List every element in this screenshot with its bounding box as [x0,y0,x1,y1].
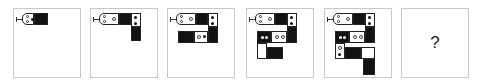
dot-icon [203,35,206,38]
question-mark: ? [402,33,468,53]
tail-end [16,17,17,22]
ring-icon [359,35,363,39]
snake-head [22,13,34,25]
ring-icon [281,35,285,39]
dot-icon [343,36,346,39]
dot-icon [338,53,341,56]
black-segment [267,47,283,59]
dot-icon [290,16,293,19]
black-segment [131,27,141,41]
eye-icon [337,20,340,23]
dot-icon [261,36,264,39]
eye-icon [26,20,29,23]
panel-6-answer[interactable]: ? [401,8,469,78]
dot-icon [211,16,214,19]
dot-icon [134,16,137,19]
black-segment [208,27,218,43]
eye-icon [259,15,262,18]
eye-icon [26,15,29,18]
ring-icon [112,17,116,21]
two-dot-segment [208,13,218,27]
eye-icon [103,20,106,23]
dot-icon [134,22,137,25]
black-segment [363,59,375,75]
black-segment [34,13,48,25]
black-segment [275,13,287,25]
ring-icon [353,35,357,39]
two-dot-segment [365,13,375,27]
snake-head [176,13,196,25]
panel-3 [167,8,235,78]
ring-icon [189,17,193,21]
ring-icon [268,17,272,21]
black-two-dot-segment [335,31,349,43]
black-two-dot-segment [257,31,271,43]
snake-head [255,13,275,25]
eye-icon [259,20,262,23]
snake-head [99,13,119,25]
eye-icon [337,15,340,18]
tail-end [327,17,328,22]
black-segment [345,47,361,59]
dot-icon [339,36,342,39]
eye-icon [180,15,183,18]
ring-icon [338,46,342,50]
tail-end [249,17,250,22]
eye-icon [103,15,106,18]
white-segment [361,47,375,59]
two-ring-segment [271,31,287,43]
eye-icon [180,20,183,23]
ring-icon [346,17,350,21]
panel-1 [13,8,81,78]
white-segment [257,43,267,59]
panel-2 [90,8,158,78]
ring-icon [275,35,279,39]
tail-end [170,17,171,22]
black-segment [196,13,208,25]
two-dot-segment [287,13,297,27]
black-segment [178,31,194,43]
black-segment [119,13,131,25]
dot-icon [368,22,371,25]
ring-icon [197,35,201,39]
dot-icon [290,22,293,25]
dot-icon [265,36,268,39]
ring-dot-segment [335,43,345,59]
snake-head [333,13,353,25]
two-dot-segment [131,13,141,27]
tail-end [93,17,94,22]
panel-5 [324,8,392,78]
panel-4 [246,8,314,78]
dot-icon [211,22,214,25]
ring-dot-segment [194,31,208,43]
black-segment [365,27,375,43]
two-ring-segment [349,31,365,43]
black-segment [353,13,365,25]
dot-icon [368,16,371,19]
black-segment [287,27,297,43]
